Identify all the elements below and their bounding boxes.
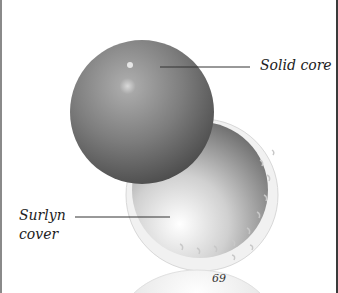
diagram-frame: 69 Solid core Surlyn cover xyxy=(0,0,338,293)
ball-number: 69 xyxy=(212,272,226,285)
label-surlyn: Surlyn xyxy=(19,207,66,224)
solid-core-sphere xyxy=(70,40,214,184)
label-cover: cover xyxy=(19,226,58,243)
golf-ball-illustration: 69 xyxy=(2,0,338,293)
bottom-golf-ball: 69 xyxy=(117,270,277,293)
label-solid-core: Solid core xyxy=(260,57,332,74)
